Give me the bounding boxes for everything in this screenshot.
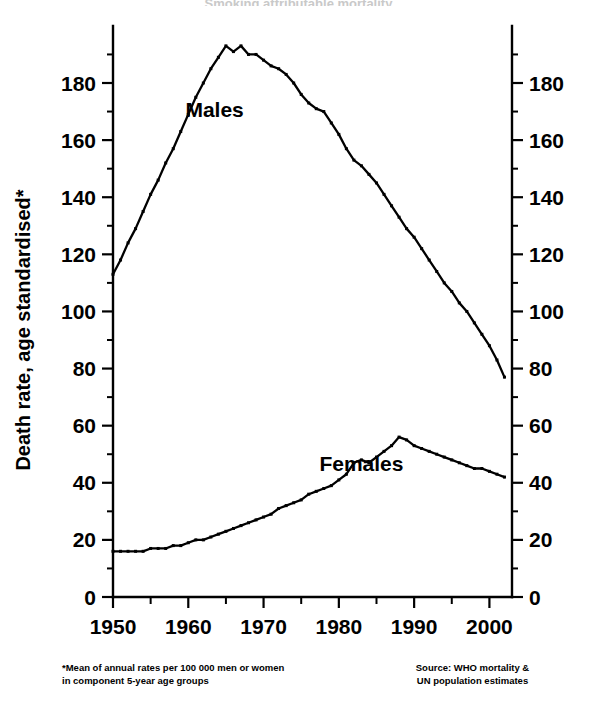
data-point-females (277, 507, 280, 510)
data-point-females (157, 547, 160, 550)
data-point-females (330, 484, 333, 487)
data-point-females (127, 550, 130, 553)
series-annotation-males: Males (185, 98, 243, 121)
data-point-males (239, 44, 242, 47)
data-point-females (428, 450, 431, 453)
y-tick-label-right: 40 (529, 471, 552, 494)
data-point-females (194, 538, 197, 541)
y-tick-label-right: 20 (529, 528, 552, 551)
x-tick-label: 1970 (240, 615, 287, 638)
data-point-females (307, 493, 310, 496)
data-point-males (277, 67, 280, 70)
data-point-males (217, 56, 220, 59)
data-point-females (239, 524, 242, 527)
data-point-males (360, 164, 363, 167)
series-annotation-females: Females (319, 452, 403, 475)
data-point-females (164, 547, 167, 550)
data-point-females (420, 447, 423, 450)
data-point-males (458, 301, 461, 304)
y-tick-label-left: 40 (73, 471, 96, 494)
data-point-males (285, 73, 288, 76)
data-point-males (390, 204, 393, 207)
data-point-males (383, 193, 386, 196)
data-point-females (450, 458, 453, 461)
data-point-males (398, 216, 401, 219)
data-point-males (307, 101, 310, 104)
data-point-females (255, 518, 258, 521)
data-point-females (112, 550, 115, 553)
data-point-females (398, 436, 401, 439)
data-point-females (465, 464, 468, 467)
y-tick-label-left: 180 (61, 72, 96, 95)
data-point-females (458, 461, 461, 464)
y-tick-label-left: 100 (61, 300, 96, 323)
data-point-males (345, 147, 348, 150)
data-point-males (232, 50, 235, 53)
y-tick-label-left: 120 (61, 243, 96, 266)
footnote-methodology: *Mean of annual rates per 100 000 men or… (62, 662, 284, 688)
data-point-males (337, 133, 340, 136)
y-tick-label-right: 120 (529, 243, 564, 266)
data-point-males (262, 59, 265, 62)
x-tick-label: 1950 (90, 615, 137, 638)
data-point-females (390, 444, 393, 447)
data-point-females (413, 444, 416, 447)
data-point-males (435, 270, 438, 273)
y-tick-label-left: 80 (73, 357, 96, 380)
data-point-males (172, 147, 175, 150)
data-point-females (149, 547, 152, 550)
data-point-males (315, 107, 318, 110)
data-point-males (112, 273, 115, 276)
data-point-males (300, 93, 303, 96)
y-tick-label-right: 140 (529, 186, 564, 209)
data-point-females (262, 516, 265, 519)
y-tick-label-right: 0 (529, 586, 541, 609)
data-point-males (134, 227, 137, 230)
x-tick-label: 1980 (315, 615, 362, 638)
data-point-males (420, 247, 423, 250)
data-point-males (450, 290, 453, 293)
data-point-males (142, 210, 145, 213)
data-point-males (292, 82, 295, 85)
data-point-males (352, 159, 355, 162)
data-point-females (232, 527, 235, 530)
y-tick-label-left: 20 (73, 528, 96, 551)
data-point-males (224, 44, 227, 47)
data-point-males (157, 179, 160, 182)
data-point-females (337, 478, 340, 481)
data-point-males (473, 321, 476, 324)
data-point-males (255, 53, 258, 56)
data-point-males (405, 227, 408, 230)
data-point-males (127, 241, 130, 244)
data-point-females (488, 470, 491, 473)
data-point-males (428, 259, 431, 262)
data-point-females (187, 541, 190, 544)
data-point-males (202, 82, 205, 85)
data-point-males (164, 161, 167, 164)
y-tick-label-right: 60 (529, 414, 552, 437)
data-point-females (142, 550, 145, 553)
data-point-females (172, 544, 175, 547)
y-tick-label-right: 80 (529, 357, 552, 380)
data-point-males (503, 376, 506, 379)
data-point-females (119, 550, 122, 553)
y-tick-label-right: 160 (529, 129, 564, 152)
data-point-females (224, 530, 227, 533)
data-point-females (495, 473, 498, 476)
line-chart: 0020204040606080801001001201201401401601… (0, 0, 597, 714)
data-point-males (209, 67, 212, 70)
data-point-females (285, 504, 288, 507)
data-point-females (435, 453, 438, 456)
data-point-males (330, 121, 333, 124)
data-point-females (322, 487, 325, 490)
data-point-males (375, 181, 378, 184)
data-point-females (503, 476, 506, 479)
data-point-females (209, 536, 212, 539)
data-point-females (202, 538, 205, 541)
y-tick-label-left: 0 (84, 586, 96, 609)
data-point-females (134, 550, 137, 553)
chart-figure: Smoking attributable mortality 002020404… (0, 0, 597, 714)
data-point-females (247, 521, 250, 524)
data-point-males (179, 130, 182, 133)
x-tick-label: 1990 (391, 615, 438, 638)
